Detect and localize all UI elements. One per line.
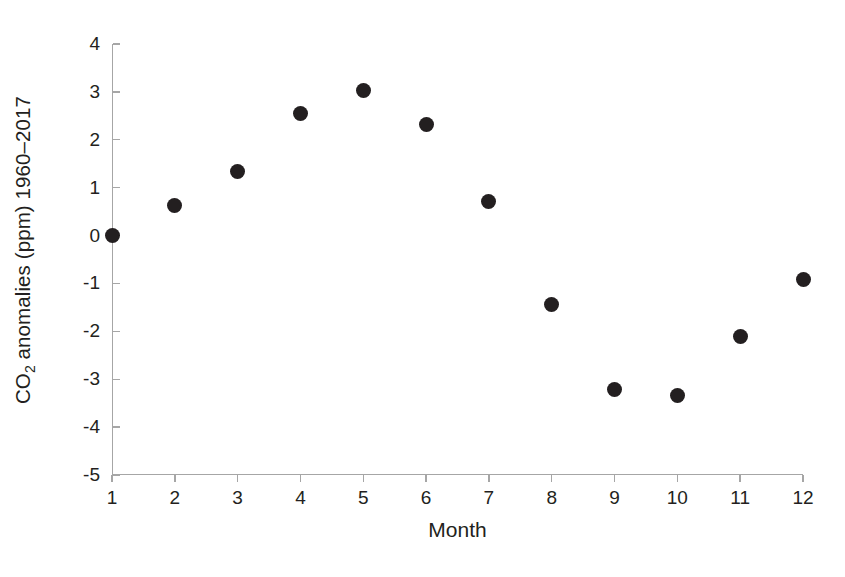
y-axis-title-prefix: CO <box>11 373 34 404</box>
y-tick-label: 0 <box>58 226 100 245</box>
y-tick-label: -1 <box>58 273 100 292</box>
x-tick-label: 7 <box>464 488 514 507</box>
x-tick-label: 10 <box>652 488 702 507</box>
data-point <box>796 272 811 287</box>
y-tick-label: -3 <box>58 369 100 388</box>
y-tick-label: 3 <box>58 82 100 101</box>
y-tick-label: -5 <box>58 465 100 484</box>
y-tick-label: 2 <box>58 130 100 149</box>
y-tick-label: 1 <box>58 178 100 197</box>
data-point <box>419 117 434 132</box>
chart-figure: CO2 anomalies (ppm) 1960–2017 43210-1-2-… <box>0 0 845 577</box>
x-tick-label: 1 <box>87 488 137 507</box>
data-point <box>733 329 748 344</box>
x-axis-title: Month <box>112 518 803 542</box>
y-tick-label: -4 <box>58 417 100 436</box>
y-tick-label: 4 <box>58 34 100 53</box>
y-tick-label: -2 <box>58 321 100 340</box>
data-point <box>293 106 308 121</box>
x-tick-label: 5 <box>338 488 388 507</box>
data-point <box>356 83 371 98</box>
y-axis-title-subscript: 2 <box>22 365 38 373</box>
x-tick-label: 2 <box>150 488 200 507</box>
x-tick-label: 4 <box>275 488 325 507</box>
axis-lines <box>112 44 803 475</box>
x-tick-label: 6 <box>401 488 451 507</box>
x-tick-label: 11 <box>715 488 765 507</box>
x-tick-label: 9 <box>590 488 640 507</box>
y-axis-title: CO2 anomalies (ppm) 1960–2017 <box>0 0 46 500</box>
y-axis-title-suffix: anomalies (ppm) 1960–2017 <box>11 96 34 365</box>
x-tick-label: 8 <box>527 488 577 507</box>
y-axis-title-text: CO2 anomalies (ppm) 1960–2017 <box>11 96 35 404</box>
x-tick-label: 3 <box>213 488 263 507</box>
x-tick-label: 12 <box>778 488 828 507</box>
data-point <box>105 228 120 243</box>
plot-area: 43210-1-2-3-4-5 123456789101112 <box>112 44 803 475</box>
